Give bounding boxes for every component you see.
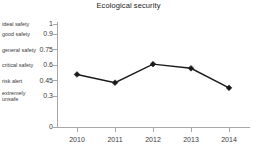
series-data-point xyxy=(188,65,194,71)
series-data-point xyxy=(112,80,118,86)
series-data-point xyxy=(74,72,80,78)
series-plot xyxy=(0,0,257,163)
series-line-ecological-security xyxy=(77,64,229,88)
ecological-security-chart: Ecological security 00.30.450.60.750.91 … xyxy=(0,0,257,163)
series-data-point xyxy=(150,61,156,67)
series-markers xyxy=(74,61,232,90)
series-data-point xyxy=(226,85,232,91)
